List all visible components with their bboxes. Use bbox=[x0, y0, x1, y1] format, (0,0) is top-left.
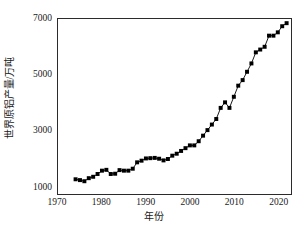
data-point-marker bbox=[254, 50, 258, 54]
x-tick-label: 1980 bbox=[81, 197, 121, 208]
data-point-marker bbox=[227, 106, 231, 110]
data-point-marker bbox=[78, 178, 82, 182]
data-point-marker bbox=[74, 177, 78, 181]
y-axis-label: 世界原铝产量/万吨 bbox=[4, 56, 16, 139]
data-point-marker bbox=[280, 24, 284, 28]
data-point-marker bbox=[162, 158, 166, 162]
data-point-marker bbox=[135, 160, 139, 164]
data-point-marker bbox=[201, 134, 205, 138]
data-point-marker bbox=[285, 21, 289, 25]
data-point-marker bbox=[188, 143, 192, 147]
data-point-marker bbox=[205, 128, 209, 132]
data-point-marker bbox=[153, 156, 157, 160]
y-axis-label-container: 世界原铝产量/万吨 bbox=[2, 0, 18, 195]
data-point-marker bbox=[276, 30, 280, 34]
x-tick-label: 2020 bbox=[259, 197, 299, 208]
data-point-marker bbox=[179, 149, 183, 153]
data-point-marker bbox=[96, 172, 100, 176]
data-point-marker bbox=[118, 168, 122, 172]
data-point-marker bbox=[157, 157, 161, 161]
data-point-marker bbox=[263, 45, 267, 49]
data-series-line bbox=[58, 19, 291, 194]
y-tick-label: 1000 bbox=[18, 182, 52, 192]
plot-area bbox=[57, 18, 292, 195]
x-tick-label: 1970 bbox=[37, 197, 77, 208]
data-point-marker bbox=[192, 143, 196, 147]
chart-figure: 世界原铝产量/万吨 1000300050007000 1970198019902… bbox=[0, 0, 307, 249]
data-point-marker bbox=[91, 175, 95, 179]
x-tick-label: 2000 bbox=[170, 197, 210, 208]
data-point-marker bbox=[126, 169, 130, 173]
data-point-marker bbox=[140, 159, 144, 163]
data-point-marker bbox=[175, 152, 179, 156]
data-point-marker bbox=[100, 169, 104, 173]
data-point-marker bbox=[113, 172, 117, 176]
y-tick-label: 7000 bbox=[18, 13, 52, 23]
data-point-marker bbox=[271, 34, 275, 38]
data-point-marker bbox=[210, 123, 214, 127]
data-point-marker bbox=[223, 100, 227, 104]
data-point-marker bbox=[131, 167, 135, 171]
x-tick-label: 2010 bbox=[214, 197, 254, 208]
data-point-marker bbox=[197, 139, 201, 143]
data-point-marker bbox=[87, 176, 91, 180]
data-point-marker bbox=[184, 146, 188, 150]
data-point-marker bbox=[241, 78, 245, 82]
data-point-marker bbox=[214, 117, 218, 121]
data-point-marker bbox=[219, 106, 223, 110]
data-point-marker bbox=[166, 157, 170, 161]
x-tick-label: 1990 bbox=[126, 197, 166, 208]
y-tick-label: 3000 bbox=[18, 125, 52, 135]
data-point-marker bbox=[170, 154, 174, 158]
data-point-marker bbox=[249, 61, 253, 65]
data-point-marker bbox=[144, 156, 148, 160]
series-line bbox=[76, 23, 287, 181]
y-tick-label: 5000 bbox=[18, 69, 52, 79]
data-point-marker bbox=[104, 168, 108, 172]
data-point-marker bbox=[109, 172, 113, 176]
data-point-marker bbox=[245, 70, 249, 74]
data-point-marker bbox=[232, 95, 236, 99]
x-axis-label: 年份 bbox=[0, 211, 307, 223]
data-point-marker bbox=[267, 34, 271, 38]
data-point-marker bbox=[148, 156, 152, 160]
data-point-marker bbox=[82, 179, 86, 183]
data-point-marker bbox=[236, 84, 240, 88]
data-point-marker bbox=[258, 48, 262, 52]
data-point-marker bbox=[122, 169, 126, 173]
